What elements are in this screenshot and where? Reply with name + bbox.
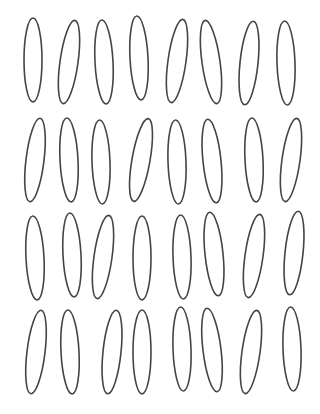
background (0, 0, 320, 414)
ellipse-grid-svg (0, 0, 320, 414)
ellipse-grid-figure (0, 0, 320, 414)
